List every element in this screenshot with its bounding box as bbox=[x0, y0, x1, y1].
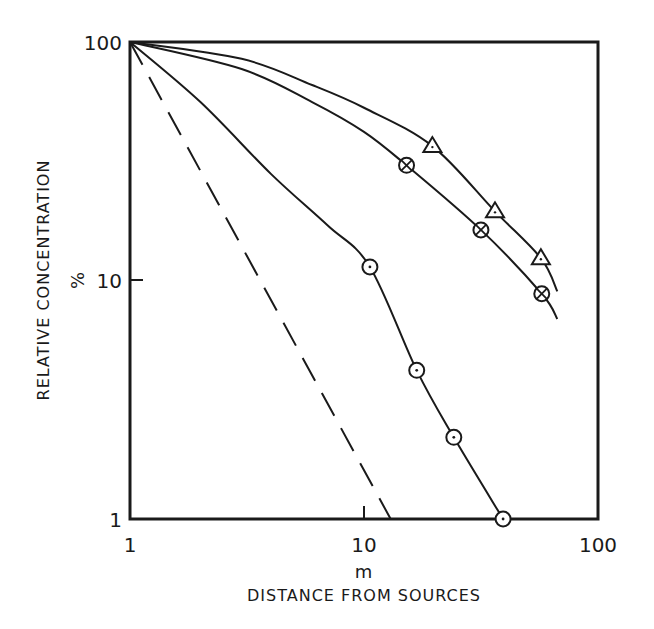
plot-frame bbox=[130, 42, 598, 519]
y-tick-label-10: 10 bbox=[97, 269, 122, 293]
series-triangle bbox=[130, 42, 557, 291]
data-point-circle-cross-icon bbox=[399, 158, 414, 173]
data-point-circle-dot-icon bbox=[409, 363, 424, 378]
x-axis-unit: m bbox=[355, 561, 374, 582]
y-axis-unit: % bbox=[67, 271, 88, 289]
data-point-circle-dot-icon bbox=[362, 259, 377, 274]
series-line-dotted-circle bbox=[130, 42, 503, 519]
x-tick-label-100: 100 bbox=[579, 533, 617, 557]
x-axis-title: DISTANCE FROM SOURCES bbox=[247, 586, 481, 605]
series-layer bbox=[130, 42, 557, 527]
series-dashed-reference bbox=[130, 42, 391, 519]
series-line-triangle bbox=[130, 42, 557, 291]
series-crossed-circle bbox=[130, 42, 557, 319]
data-point-circle-dot-icon bbox=[496, 512, 511, 527]
data-point-circle-dot-icon bbox=[446, 430, 461, 445]
data-point-circle-cross-icon bbox=[534, 286, 549, 301]
series-dotted-circle bbox=[130, 42, 511, 527]
chart: 100 10 1 1 10 100 m DISTANCE FROM SOURCE… bbox=[0, 0, 654, 629]
series-line-dashed-reference bbox=[130, 42, 391, 519]
y-tick-label-100: 100 bbox=[84, 31, 122, 55]
series-line-crossed-circle bbox=[130, 42, 557, 319]
x-tick-label-1: 1 bbox=[124, 533, 137, 557]
y-tick-label-1: 1 bbox=[109, 508, 122, 532]
data-point-triangle-icon bbox=[423, 137, 441, 152]
data-point-circle-cross-icon bbox=[473, 222, 488, 237]
x-tick-label-10: 10 bbox=[351, 533, 376, 557]
y-axis-title: RELATIVE CONCENTRATION bbox=[34, 160, 53, 401]
